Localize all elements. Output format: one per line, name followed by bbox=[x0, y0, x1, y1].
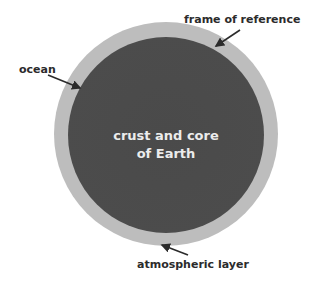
arrows bbox=[0, 0, 310, 289]
ocean-arrow bbox=[48, 75, 80, 88]
frame-arrow bbox=[216, 30, 240, 46]
atmosphere-arrow bbox=[162, 245, 188, 255]
